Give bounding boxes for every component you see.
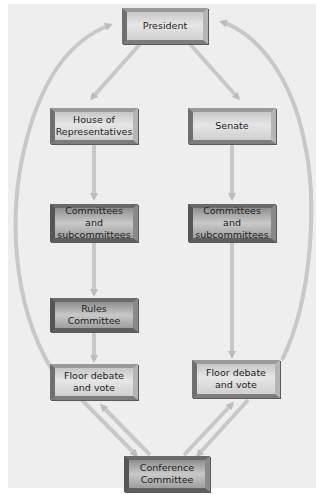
node-label: Senate <box>215 120 248 132</box>
node-label: Floor debate and vote <box>206 367 266 391</box>
arrow-senate-floor-to-conference <box>198 400 248 455</box>
node-rules-committee: Rules Committee <box>50 298 138 332</box>
node-label: President <box>143 20 187 32</box>
arrow-conference-to-senate-floor <box>184 404 232 455</box>
arrow-president-to-house <box>92 44 140 98</box>
node-label: Committees and subcommittees <box>55 205 133 241</box>
node-label: Floor debate and vote <box>64 370 124 394</box>
node-senate-floor-debate: Floor debate and vote <box>192 360 280 398</box>
node-senate: Senate <box>188 108 276 144</box>
node-senate-committees: Committees and subcommittees <box>188 204 276 242</box>
node-label: Committees and subcommittees <box>193 205 271 241</box>
node-label: Conference Committee <box>140 462 194 486</box>
node-president: President <box>122 8 208 44</box>
arrow-house-floor-to-conference <box>82 400 136 455</box>
node-conference-committee: Conference Committee <box>124 456 210 492</box>
node-house-floor-debate: Floor debate and vote <box>50 364 138 400</box>
node-label: House of Representatives <box>56 114 133 138</box>
arrow-president-to-senate <box>190 44 238 98</box>
node-label: Rules Committee <box>55 303 133 327</box>
flow-arrows <box>0 0 324 495</box>
node-house-committees: Committees and subcommittees <box>50 204 138 242</box>
arrow-senate-floor-to-president <box>222 22 311 360</box>
node-house-of-representatives: House of Representatives <box>50 108 138 144</box>
